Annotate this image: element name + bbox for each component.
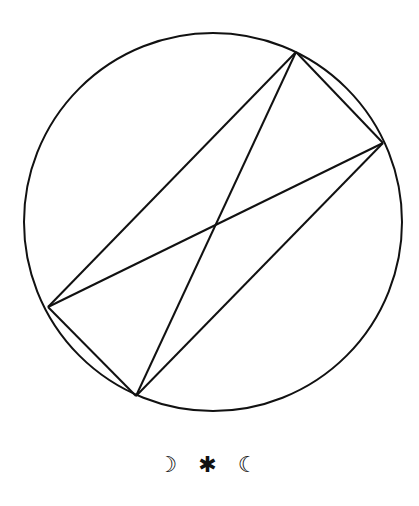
segment-BC xyxy=(48,143,383,307)
segment-AB xyxy=(296,52,383,143)
segment-CD xyxy=(48,307,136,396)
waning-moon-icon: ☾ xyxy=(238,452,262,477)
inscribed-quadrilateral-diagram xyxy=(0,0,419,506)
waxing-moon-icon: ☽ xyxy=(158,452,182,477)
chord-segments xyxy=(48,52,383,396)
segment-BD xyxy=(136,143,383,396)
caption-symbols: ☽ ✱ ☾ xyxy=(0,452,419,477)
segment-AC xyxy=(48,52,296,307)
circle xyxy=(24,33,402,411)
asterisk-icon: ✱ xyxy=(198,452,220,477)
